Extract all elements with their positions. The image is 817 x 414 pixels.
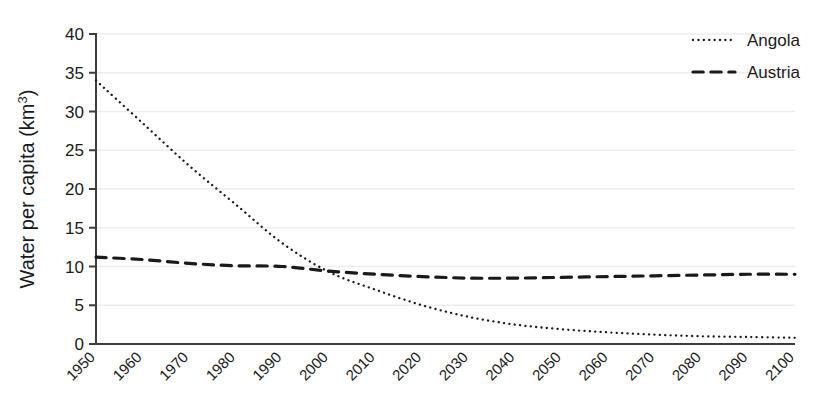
y-axis-title-superscript: 3: [15, 96, 30, 103]
legend-label-angola: Angola: [747, 31, 800, 50]
y-axis-tick-label: 30: [65, 103, 84, 122]
y-axis-tick-label: 10: [65, 258, 84, 277]
y-axis-tick-label: 20: [65, 180, 84, 199]
chart-container: 0510152025303540 19501960197019801990200…: [0, 0, 817, 414]
y-axis-title-text: Water per capita (km3): [15, 90, 38, 289]
water-per-capita-line-chart: 0510152025303540 19501960197019801990200…: [0, 0, 817, 414]
y-axis-title-main: Water per capita (km: [16, 104, 38, 289]
legend-label-austria: Austria: [747, 63, 800, 82]
y-axis-title: Water per capita (km3): [15, 90, 38, 289]
y-axis-tick-label: 15: [65, 219, 84, 238]
y-axis-title-tail: ): [16, 90, 38, 97]
y-axis-tick-label: 25: [65, 141, 84, 160]
y-axis-tick-label: 5: [75, 296, 84, 315]
y-axis-tick-label: 35: [65, 64, 84, 83]
y-axis-tick-label: 40: [65, 25, 84, 44]
